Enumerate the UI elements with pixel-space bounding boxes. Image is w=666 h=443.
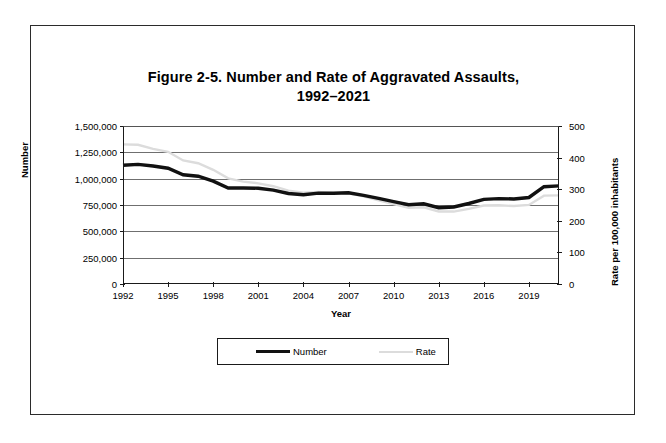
x-axis-label: Year	[123, 308, 559, 319]
chart-legend: Number Rate	[217, 338, 449, 365]
y-axis-tick-label-left: 750,000	[47, 200, 117, 211]
y-axis-label-left: Number	[19, 142, 30, 178]
x-axis-tick-label: 2019	[506, 290, 552, 301]
y-axis-tick-label-left: 250,000	[47, 252, 117, 263]
y-axis-tick-label-right: 500	[569, 121, 609, 132]
y-axis-tick-label-right: 100	[569, 247, 609, 258]
legend-swatch-number-icon	[256, 350, 290, 353]
y-axis-tick-label-left: 1,000,000	[47, 173, 117, 184]
y-axis-tick-mark-right	[557, 284, 562, 285]
legend-swatch-rate-icon	[379, 351, 413, 353]
plot-area	[123, 126, 559, 284]
y-axis-tick-label-left: 500,000	[47, 226, 117, 237]
x-axis-tick-label: 1992	[100, 290, 146, 301]
figure-frame: Figure 2-5. Number and Rate of Aggravate…	[30, 25, 635, 415]
x-axis-tick-label: 1995	[145, 290, 191, 301]
legend-label-number: Number	[293, 346, 327, 357]
x-axis-tick-label: 2007	[326, 290, 372, 301]
y-axis-tick-label-right: 400	[569, 152, 609, 163]
legend-label-rate: Rate	[416, 346, 436, 357]
y-axis-tick-label-left: 1,500,000	[47, 121, 117, 132]
chart-title-line-2: 1992–2021	[31, 87, 636, 106]
plot-lines	[123, 126, 559, 284]
chart-title-line-1: Figure 2-5. Number and Rate of Aggravate…	[148, 69, 519, 85]
x-axis-tick-label: 2004	[280, 290, 326, 301]
legend-item-rate: Rate	[379, 346, 436, 357]
chart-title: Figure 2-5. Number and Rate of Aggravate…	[31, 68, 636, 106]
legend-item-number: Number	[256, 346, 327, 357]
x-axis-tick-label: 2010	[371, 290, 417, 301]
x-axis-tick-label: 1998	[190, 290, 236, 301]
line-series-rate	[123, 144, 559, 211]
y-axis-label-right: Rate per 100,000 inhabitants	[609, 158, 620, 286]
y-axis-tick-label-left: 1,250,000	[47, 147, 117, 158]
line-series-number	[123, 164, 559, 207]
y-axis-tick-label-right: 0	[569, 279, 609, 290]
y-axis-tick-label-right: 300	[569, 184, 609, 195]
x-axis-tick-label: 2013	[416, 290, 462, 301]
y-axis-tick-label-right: 200	[569, 215, 609, 226]
y-axis-tick-label-left: 0	[47, 279, 117, 290]
x-axis-tick-label: 2001	[235, 290, 281, 301]
x-axis-tick-label: 2016	[461, 290, 507, 301]
